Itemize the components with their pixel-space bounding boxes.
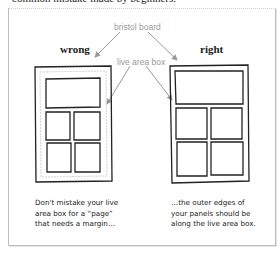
wrong-page-drawing [35, 66, 112, 182]
caption-line: along the live area box. [171, 219, 256, 230]
caption-line: …the outer edges of [171, 198, 256, 209]
caption-line: your panels should be [171, 209, 256, 220]
right-caption: …the outer edges of your panels should b… [171, 198, 256, 230]
caption-line: that needs a margin… [35, 219, 118, 230]
caption-line: area box for a “page” [35, 209, 118, 220]
annotation-arrows [95, 32, 177, 104]
caption-line: Don't mistake your live [35, 198, 118, 209]
right-page-drawing [170, 65, 249, 183]
wrong-caption: Don't mistake your live area box for a “… [35, 198, 118, 230]
